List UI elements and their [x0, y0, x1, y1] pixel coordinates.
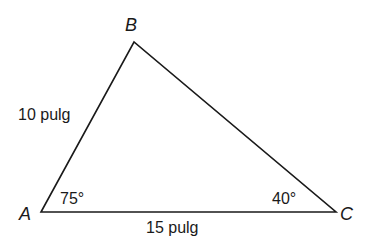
- side-label-ab: 10 pulg: [18, 107, 71, 123]
- vertex-label-b: B: [125, 16, 137, 34]
- vertex-label-c: C: [340, 205, 353, 223]
- triangle-diagram: B A C 10 pulg 15 pulg 75° 40°: [0, 0, 380, 249]
- side-label-ac: 15 pulg: [146, 220, 199, 236]
- vertex-label-a: A: [19, 205, 31, 223]
- angle-label-c: 40°: [272, 191, 296, 207]
- triangle-shape: [0, 0, 380, 249]
- angle-label-a: 75°: [60, 191, 84, 207]
